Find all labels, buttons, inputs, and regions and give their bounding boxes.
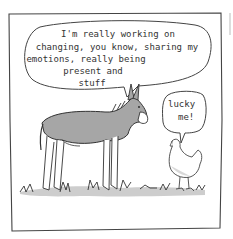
speech-line-2: changing, you know, sharing my	[36, 42, 199, 52]
chicken-speech-line-1: lucky	[168, 99, 196, 109]
speech-line-3: emotions, really being	[26, 54, 145, 64]
chicken-speech-line-2: me!	[178, 112, 194, 122]
comic-panel: I'm really working on changing, you know…	[0, 0, 233, 239]
speech-line-5: stuff	[78, 78, 105, 88]
speech-line-4: present and	[63, 66, 123, 76]
comic-svg: I'm really working on changing, you know…	[0, 0, 233, 239]
speech-line-1: I'm really working on	[61, 29, 175, 39]
